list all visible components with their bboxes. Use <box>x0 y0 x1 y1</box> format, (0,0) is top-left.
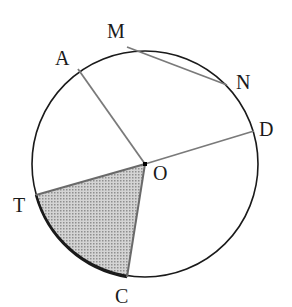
label-C: C <box>115 285 128 307</box>
center-point-O <box>143 162 147 166</box>
label-M: M <box>107 20 125 42</box>
radius-OD <box>145 131 254 164</box>
radius-OA <box>78 69 145 164</box>
label-T: T <box>13 194 25 216</box>
label-A: A <box>55 47 70 69</box>
circle-diagram: M A N D O T C <box>0 0 292 307</box>
chord-MN <box>127 47 227 85</box>
label-D: D <box>259 118 273 140</box>
label-O: O <box>153 162 167 184</box>
shaded-sector-TOC <box>36 164 145 277</box>
label-N: N <box>236 71 250 93</box>
